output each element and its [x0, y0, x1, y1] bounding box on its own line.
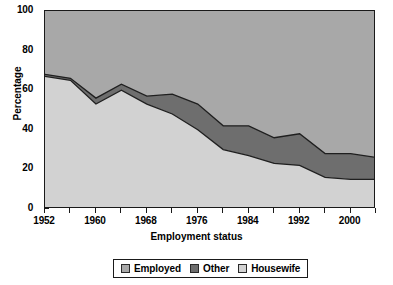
- x-axis-tick: [95, 208, 96, 213]
- legend-label: Employed: [134, 263, 181, 274]
- x-axis-tick: [197, 208, 198, 213]
- y-axis-tick-label: 60: [22, 84, 33, 94]
- x-axis-tick: [120, 208, 121, 213]
- legend-swatch-icon: [121, 264, 130, 273]
- x-axis-tick: [324, 208, 325, 213]
- x-axis-title: Employment status: [0, 231, 393, 242]
- chart-container: Percentage 020406080100 1952196019681976…: [0, 0, 393, 285]
- x-axis-tick-label: 1984: [237, 215, 258, 226]
- x-axis-tick: [248, 208, 249, 213]
- legend-swatch-icon: [238, 264, 247, 273]
- legend-item: Housewife: [238, 263, 300, 274]
- x-axis-tick-label: 1992: [288, 215, 309, 226]
- y-axis-tick-label: 100: [17, 5, 33, 15]
- x-axis-tick: [273, 208, 274, 213]
- x-axis-tick: [44, 208, 45, 213]
- chart-legend: EmployedOtherHousewife: [113, 259, 308, 278]
- x-axis-tick-label: 1952: [33, 215, 54, 226]
- y-axis-tick-label: 80: [22, 45, 33, 55]
- x-axis-tick-label: 1960: [84, 215, 105, 226]
- x-axis-tick: [350, 208, 351, 213]
- y-axis-tick-label: 20: [22, 163, 33, 173]
- plot-area: [44, 10, 375, 208]
- x-axis-tick-label: 2000: [339, 215, 360, 226]
- x-axis-tick: [69, 208, 70, 213]
- stacked-area-plot: [45, 11, 375, 208]
- legend-swatch-icon: [190, 264, 199, 273]
- x-axis-tick-label: 1976: [186, 215, 207, 226]
- x-axis-tick: [171, 208, 172, 213]
- x-axis-tick: [146, 208, 147, 213]
- x-axis-tick: [375, 208, 376, 213]
- y-axis-tick-label: 0: [28, 203, 33, 213]
- y-axis-tick-labels: 020406080100: [0, 0, 40, 218]
- legend-label: Other: [203, 263, 229, 274]
- legend-item: Other: [190, 263, 229, 274]
- legend-item: Employed: [121, 263, 181, 274]
- x-axis-tick: [299, 208, 300, 213]
- x-axis-tick: [222, 208, 223, 213]
- x-axis-tick-label: 1968: [135, 215, 156, 226]
- y-axis-tick-label: 40: [22, 124, 33, 134]
- legend-label: Housewife: [251, 263, 300, 274]
